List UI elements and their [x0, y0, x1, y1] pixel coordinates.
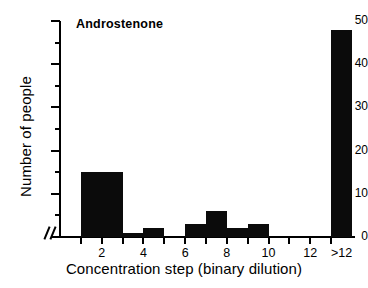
bar: [227, 228, 248, 237]
x-tick-label: 8: [207, 246, 247, 260]
x-tick: [330, 237, 332, 244]
x-tick: [268, 237, 270, 244]
x-tick: [309, 237, 311, 244]
x-tick-label: 6: [165, 246, 205, 260]
bar: [143, 228, 164, 237]
y-tick-major: [51, 150, 60, 152]
bar: [185, 224, 206, 237]
x-tick: [288, 237, 290, 244]
x-tick: [205, 237, 207, 244]
x-tick-label: 10: [249, 246, 289, 260]
y-tick-major: [51, 236, 60, 238]
x-tick-label: 2: [82, 246, 122, 260]
bar: [331, 30, 352, 237]
bar: [206, 211, 227, 237]
y-tick-major: [51, 193, 60, 195]
chart-title: Androstenone: [76, 17, 163, 31]
x-tick: [142, 237, 144, 244]
x-tick: [122, 237, 124, 244]
y-tick-major: [51, 106, 60, 108]
x-tick-label: 4: [123, 246, 163, 260]
y-tick-major: [51, 63, 60, 65]
bar: [81, 172, 123, 237]
y-tick-major: [51, 20, 60, 22]
bar: [123, 233, 144, 237]
x-tick: [163, 237, 165, 244]
bar: [248, 224, 269, 237]
y-axis-label: Number of people: [17, 42, 34, 232]
x-tick: [247, 237, 249, 244]
x-tick: [184, 237, 186, 244]
chart-figure: Number of people 01020304050 24681012>12…: [0, 0, 368, 288]
x-tick: [80, 237, 82, 244]
x-axis-label: Concentration step (binary dilution): [0, 260, 368, 277]
x-tick-label: >12: [322, 246, 362, 260]
x-tick: [101, 237, 103, 244]
x-tick: [226, 237, 228, 244]
bar-series: [60, 21, 352, 237]
